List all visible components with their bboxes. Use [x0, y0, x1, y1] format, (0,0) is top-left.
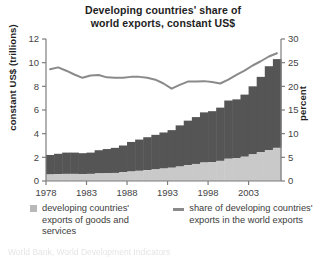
svg-text:2003: 2003 — [238, 187, 259, 198]
chart-figure: Developing countries' share of world exp… — [0, 0, 326, 259]
svg-text:8: 8 — [34, 81, 39, 92]
svg-text:0: 0 — [288, 175, 293, 186]
legend-item-bars: developing countries' exports of goods a… — [30, 203, 159, 238]
svg-text:1988: 1988 — [116, 187, 137, 198]
svg-text:5: 5 — [288, 152, 293, 163]
footer-source-text: World Bank, World Development Indicators — [8, 248, 170, 257]
svg-text:6: 6 — [34, 104, 39, 115]
chart-legend: developing countries' exports of goods a… — [30, 203, 320, 238]
svg-text:1978: 1978 — [35, 187, 56, 198]
svg-text:10: 10 — [28, 57, 39, 68]
footer-strip: World Bank, World Development Indicators — [0, 248, 326, 259]
svg-text:1998: 1998 — [197, 187, 218, 198]
legend-label-bars: developing countries' exports of goods a… — [42, 203, 159, 238]
y-axis-left-title: constant US$ (trillions) — [7, 14, 18, 142]
svg-text:2: 2 — [34, 152, 39, 163]
y-axis-right-title: percent — [297, 70, 308, 138]
svg-text:1983: 1983 — [76, 187, 97, 198]
svg-text:12: 12 — [28, 33, 39, 44]
svg-text:30: 30 — [288, 33, 299, 44]
legend-label-line: share of developing countries' exports i… — [189, 203, 320, 238]
legend-swatch-icon — [30, 203, 37, 238]
legend-line-icon — [173, 203, 184, 238]
svg-text:25: 25 — [288, 57, 299, 68]
svg-text:0: 0 — [34, 175, 39, 186]
legend-item-line: share of developing countries' exports i… — [173, 203, 320, 238]
svg-text:4: 4 — [34, 128, 39, 139]
svg-text:1993: 1993 — [157, 187, 178, 198]
